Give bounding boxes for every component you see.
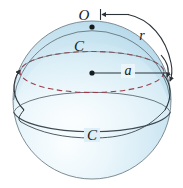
arc-r-lower-with-arrow bbox=[170, 63, 172, 81]
label-a: a bbox=[125, 63, 132, 78]
label-O: O bbox=[79, 7, 90, 23]
label-r: r bbox=[139, 28, 145, 43]
label-C-upper: C bbox=[74, 38, 85, 54]
label-C-lower: C bbox=[87, 127, 98, 143]
apex-dot bbox=[89, 24, 94, 29]
sphere-diagram-canvas: O r a C C bbox=[0, 0, 183, 188]
sphere-figure: O r a C C bbox=[0, 0, 183, 188]
sphere-center-dot bbox=[89, 70, 94, 75]
